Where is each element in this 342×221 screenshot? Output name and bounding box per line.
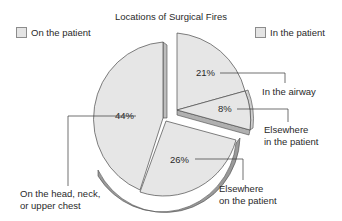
label-line: or upper chest	[20, 200, 100, 212]
label-elsewhere-on: Elsewhere on the patient	[219, 183, 277, 207]
label-elsewhere-in: Elsewhere in the patient	[264, 124, 318, 148]
legend-label: On the patient	[31, 27, 91, 38]
label-line: Elsewhere	[219, 183, 277, 195]
slice-edge-head	[163, 42, 167, 118]
pct-airway: 21%	[196, 67, 215, 78]
label-line: in the patient	[264, 136, 318, 148]
legend-label: In the patient	[270, 27, 325, 38]
pct-elsewhere-on: 26%	[170, 154, 189, 165]
label-line: Elsewhere	[264, 124, 318, 136]
legend-swatch-icon	[255, 27, 266, 38]
pct-head: 44%	[115, 110, 134, 121]
chart-title: Locations of Surgical Fires	[0, 11, 342, 22]
label-line: On the head, neck,	[20, 188, 100, 200]
legend-on-patient: On the patient	[16, 27, 91, 38]
pct-elsewhere-in: 8%	[218, 103, 232, 114]
legend-in-patient: In the patient	[255, 27, 325, 38]
legend-swatch-icon	[16, 27, 27, 38]
label-airway: In the airway	[262, 86, 316, 98]
label-head: On the head, neck, or upper chest	[20, 188, 100, 212]
label-line: on the patient	[219, 195, 277, 207]
